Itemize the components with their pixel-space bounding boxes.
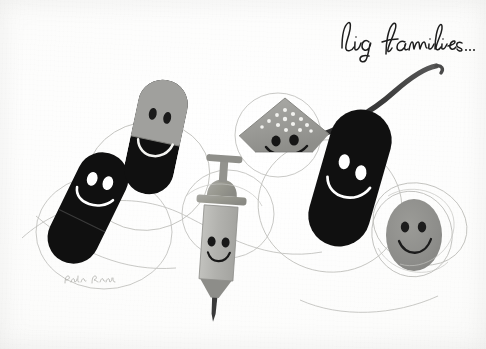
spoon-eye-left <box>271 136 280 147</box>
pill-body <box>386 199 442 271</box>
syringe-plunger-top <box>206 154 242 163</box>
capsule-cap-upper <box>131 75 193 146</box>
figure-spoon-powder <box>239 98 329 155</box>
artist-signature <box>62 272 118 286</box>
figure-syringe <box>188 153 250 323</box>
title-script-big-families <box>336 18 476 64</box>
figure-pill-oval-gray <box>386 199 442 271</box>
capsule-body <box>39 144 137 273</box>
pill-eye-left <box>401 222 409 233</box>
title-ellipsis <box>465 49 475 51</box>
illustration-canvas: big families... Paul Rand <box>0 0 486 349</box>
spoon-eye-right <box>289 134 299 145</box>
syringe-plunger-rod <box>219 160 229 183</box>
figure-capsule-black-left <box>39 144 137 273</box>
figure-capsule-two-tone <box>119 75 192 199</box>
pill-eye-right <box>418 222 426 233</box>
syringe-barrel <box>199 205 238 281</box>
